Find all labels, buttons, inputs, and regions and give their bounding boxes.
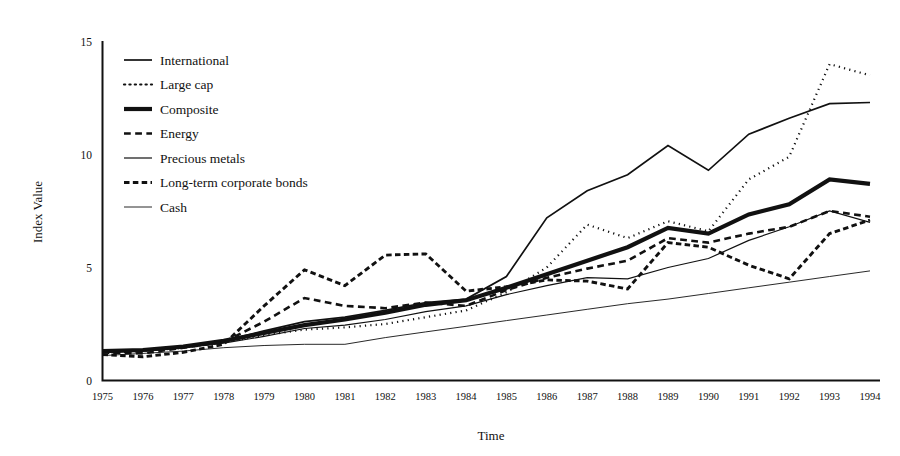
x-axis-title: Time xyxy=(478,428,505,443)
x-tick-label: 1993 xyxy=(819,391,840,402)
legend-label: Composite xyxy=(160,102,219,117)
y-tick-label: 10 xyxy=(81,149,93,161)
x-tick-label: 1979 xyxy=(254,391,275,402)
series-line-international xyxy=(103,103,871,353)
x-tick-label: 1992 xyxy=(779,391,800,402)
x-tick-label: 1991 xyxy=(738,391,759,402)
y-tick-label: 15 xyxy=(81,36,93,48)
series-line-precious-metals xyxy=(103,211,871,352)
x-tick-label: 1988 xyxy=(617,391,638,402)
x-tick-label: 1986 xyxy=(536,391,557,402)
legend-label: Energy xyxy=(160,126,199,141)
x-tick-label: 1982 xyxy=(375,391,396,402)
y-axis-ticks: 15 10 5 0 xyxy=(81,36,93,387)
x-tick-label: 1990 xyxy=(698,391,719,402)
x-tick-label: 1976 xyxy=(132,391,153,402)
x-tick-label: 1994 xyxy=(860,391,882,402)
x-tick-label: 1983 xyxy=(415,391,436,402)
x-tick-label: 1980 xyxy=(294,391,315,402)
series-line-composite xyxy=(103,179,871,351)
y-axis-title: Index Value xyxy=(30,181,45,243)
legend-label: Precious metals xyxy=(160,151,245,166)
chart-figure: 15 10 5 0 Index Value 197519761977197819… xyxy=(0,0,900,456)
legend-label: Cash xyxy=(160,200,187,215)
legend-label: Long-term corporate bonds xyxy=(160,175,308,190)
x-axis-ticks: 1975197619771978197919801981198219831984… xyxy=(92,391,881,402)
line-chart: 15 10 5 0 Index Value 197519761977197819… xyxy=(0,0,900,456)
x-tick-label: 1978 xyxy=(213,391,234,402)
x-tick-label: 1977 xyxy=(173,391,194,402)
x-tick-label: 1989 xyxy=(658,391,679,402)
x-tick-label: 1981 xyxy=(334,391,355,402)
x-tick-label: 1985 xyxy=(496,391,517,402)
y-tick-label: 0 xyxy=(86,375,92,387)
x-tick-label: 1975 xyxy=(92,391,113,402)
x-tick-label: 1987 xyxy=(577,391,598,402)
legend-label: International xyxy=(160,53,229,68)
y-tick-label: 5 xyxy=(86,262,92,274)
x-tick-label: 1984 xyxy=(456,391,478,402)
series-line-energy xyxy=(103,211,871,353)
legend-label: Large cap xyxy=(160,77,214,92)
chart-legend: InternationalLarge capCompositeEnergyPre… xyxy=(124,53,308,215)
